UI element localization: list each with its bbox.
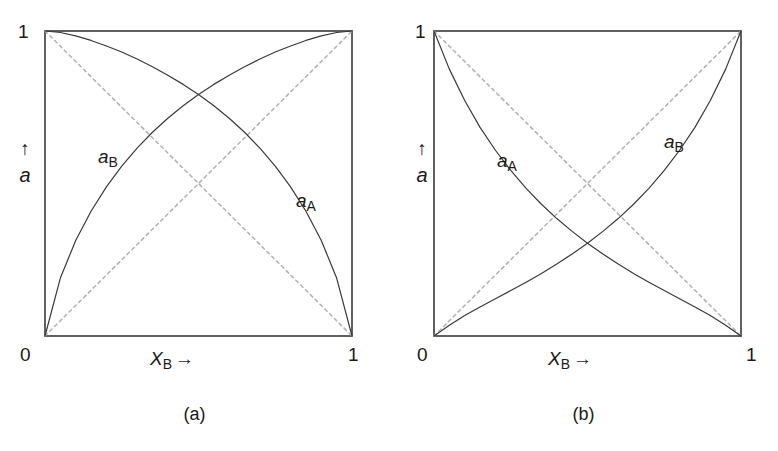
curve-label-symbol: a xyxy=(497,150,508,171)
y-axis-tick-max-b: 1 xyxy=(415,22,426,41)
up-arrow-icon: ↑ xyxy=(10,136,40,162)
x-axis-label-symbol: X xyxy=(548,348,561,369)
curve-label-ab-a: aB xyxy=(98,146,118,170)
x-axis-label-a: XB→ xyxy=(150,348,194,372)
up-arrow-icon: ↑ xyxy=(407,136,437,162)
y-axis-label-a: ↑ a xyxy=(10,136,40,189)
y-axis-label-symbol: a xyxy=(10,162,40,189)
curve-label-aa-a: aA xyxy=(296,190,316,214)
activity-composition-figure: 1 0 1 ↑ a XB→ aB aA (a) 1 0 1 ↑ a XB→ xyxy=(0,0,778,451)
panel-b: 1 0 1 ↑ a XB→ aA aB (b) xyxy=(389,0,778,451)
plot-area-b xyxy=(389,0,778,451)
y-axis-label-b: ↑ a xyxy=(407,136,437,189)
curve-label-subscript: A xyxy=(508,158,517,174)
x-axis-tick-min-b: 0 xyxy=(417,345,428,364)
curve-label-symbol: a xyxy=(664,131,675,152)
x-axis-tick-min-a: 0 xyxy=(20,345,31,364)
y-axis-tick-max-a: 1 xyxy=(18,22,29,41)
plot-area-a xyxy=(0,0,389,451)
right-arrow-icon: → xyxy=(573,348,592,369)
curve-label-subscript: B xyxy=(675,139,684,155)
x-axis-label-symbol: X xyxy=(150,348,163,369)
curve-label-subscript: A xyxy=(307,198,316,214)
curve-label-ab-b: aB xyxy=(664,131,684,155)
panel-caption-a: (a) xyxy=(0,404,389,425)
curve-label-subscript: B xyxy=(109,154,118,170)
x-axis-label-subscript: B xyxy=(561,356,570,372)
curve-label-symbol: a xyxy=(98,146,109,167)
right-arrow-icon: → xyxy=(175,348,194,369)
panel-caption-b: (b) xyxy=(389,404,778,425)
x-axis-tick-max-b: 1 xyxy=(746,345,757,364)
curve-label-symbol: a xyxy=(296,190,307,211)
y-axis-label-symbol: a xyxy=(407,162,437,189)
curve-label-aa-b: aA xyxy=(497,150,517,174)
x-axis-tick-max-a: 1 xyxy=(348,345,359,364)
x-axis-label-subscript: B xyxy=(163,356,172,372)
x-axis-label-b: XB→ xyxy=(548,348,592,372)
panel-a: 1 0 1 ↑ a XB→ aB aA (a) xyxy=(0,0,389,451)
